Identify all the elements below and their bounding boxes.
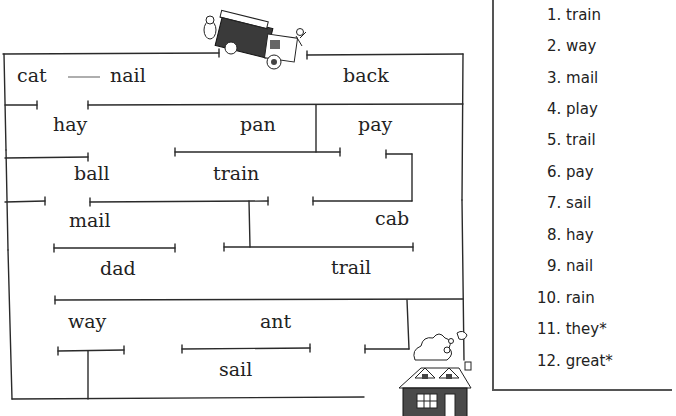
maze-word-ant: ant xyxy=(260,312,291,331)
maze-wall xyxy=(249,201,250,247)
maze-word-back: back xyxy=(343,66,389,85)
fire-truck-icon xyxy=(204,10,306,69)
maze-wall xyxy=(6,150,8,250)
maze-wall xyxy=(88,104,463,105)
maze-word-pan: pan xyxy=(240,115,276,134)
list-item: 7. sail xyxy=(547,196,676,211)
maze-wall xyxy=(182,348,310,349)
maze-wall xyxy=(5,157,88,158)
maze-word-trail: trail xyxy=(331,258,371,277)
maze-wall xyxy=(12,397,364,399)
list-item: 9. nail xyxy=(547,259,676,274)
maze-wall xyxy=(4,54,6,150)
maze-word-train: train xyxy=(213,164,259,183)
maze-word-nail: nail xyxy=(110,66,146,85)
list-item: 11. they* xyxy=(537,322,676,337)
maze-word-cab: cab xyxy=(375,209,409,228)
list-item: 8. hay xyxy=(547,228,676,243)
maze-wall xyxy=(5,201,45,202)
maze-word-pay: pay xyxy=(358,115,392,134)
maze-word-ball: ball xyxy=(74,164,110,183)
maze-wall xyxy=(307,54,463,55)
maze-wall xyxy=(90,201,268,202)
maze-word-hay: hay xyxy=(53,115,87,134)
list-item: 1. train xyxy=(547,8,676,23)
maze-word-cat: cat xyxy=(17,66,47,85)
maze-wall xyxy=(55,299,463,300)
list-item: 5. trail xyxy=(547,133,676,148)
list-item: 3. mail xyxy=(547,71,676,86)
maze-wall xyxy=(58,350,124,351)
list-item: 6. pay xyxy=(547,165,676,180)
list-item: 10. rain xyxy=(537,291,676,306)
list-item: 4. play xyxy=(547,102,676,117)
maze-word-way: way xyxy=(68,312,106,331)
maze-wall xyxy=(407,300,409,349)
word-list-box: 1. train 2. way 3. mail 4. play 5. trail… xyxy=(492,0,672,391)
maze-word-sail: sail xyxy=(219,360,252,379)
maze-wall xyxy=(3,53,219,54)
burning-house-icon xyxy=(399,331,471,416)
maze-word-dad: dad xyxy=(100,259,136,278)
maze-wall xyxy=(462,54,463,200)
list-item: 2. way xyxy=(547,39,676,54)
maze-wall xyxy=(8,250,12,399)
maze-word-mail: mail xyxy=(69,211,111,230)
list-item: 12. great* xyxy=(537,354,676,369)
